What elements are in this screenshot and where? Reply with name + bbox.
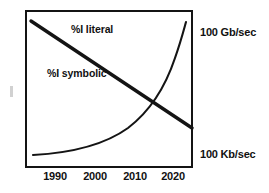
figure-canvas: %I literal %I symbolic 100 Gb/sec 100 Kb… [0, 0, 269, 193]
xtick-2000: 2000 [75, 170, 115, 182]
series-label-symbolic: %I symbolic [47, 67, 107, 79]
rate-label-top: 100 Gb/sec [200, 26, 256, 38]
rate-label-bottom: 100 Kb/sec [200, 148, 255, 160]
xtick-1990: 1990 [35, 170, 75, 182]
xtick-2020: 2020 [153, 170, 193, 182]
xtick-2010: 2010 [115, 170, 155, 182]
series-label-literal: %I literal [71, 23, 113, 35]
scan-artifact [10, 86, 13, 97]
